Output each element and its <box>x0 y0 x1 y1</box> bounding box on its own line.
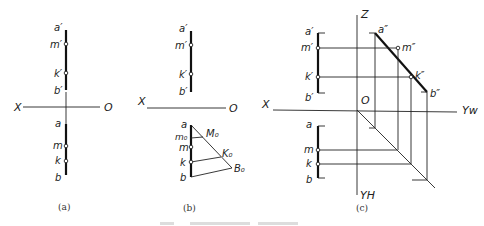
label-b-prime: b′ <box>179 86 188 97</box>
label-k-prime: k′ <box>54 68 63 79</box>
point-m-prime <box>189 43 193 47</box>
faded-caption-fragment <box>190 222 250 225</box>
point-k-prime <box>64 71 68 75</box>
point-m-prime <box>64 42 68 46</box>
construction-line-m0 <box>191 137 203 138</box>
axis-label-z: Z <box>360 8 369 21</box>
label-b-dbl: b″ <box>430 88 440 99</box>
label-M0: M₀ <box>206 128 219 139</box>
label-m-dbl: m″ <box>402 42 416 53</box>
label-m-prime: m′ <box>50 39 63 50</box>
label-m0: m₀ <box>175 132 188 142</box>
point-k <box>189 160 193 164</box>
label-b: b <box>55 172 61 183</box>
x-yw-axis-line <box>273 110 457 112</box>
point-k <box>64 159 68 163</box>
construction-line-k <box>191 157 221 162</box>
point-k <box>316 162 320 166</box>
label-m-prime: m′ <box>175 40 188 51</box>
label-m: m <box>179 142 189 153</box>
label-b-prime: b′ <box>54 85 63 96</box>
label-a: a <box>306 119 312 130</box>
caption-a: (a) <box>58 202 70 212</box>
label-b: b <box>180 172 186 183</box>
side-view-line <box>375 33 427 92</box>
label-k-prime: k′ <box>305 71 314 82</box>
45-degree-line <box>357 110 435 188</box>
label-b-prime: b′ <box>305 92 314 103</box>
axis-label-o: O <box>229 102 238 115</box>
label-k-prime: k′ <box>179 69 188 80</box>
caption-b: (b) <box>183 203 196 213</box>
label-k: k <box>55 155 62 166</box>
label-m-prime: m′ <box>301 42 314 53</box>
point-m-prime <box>316 46 320 50</box>
axis-label-x: X <box>137 95 146 108</box>
label-a-prime: a′ <box>54 22 63 33</box>
axis-label-o: O <box>104 101 113 114</box>
point-k-prime <box>316 75 320 79</box>
axis-label-o: O <box>361 94 370 107</box>
label-m: m <box>304 144 314 155</box>
projection-figure: X O a′ m′ k′ b′ a m k b (a) X O a′ m′ k′… <box>0 0 484 226</box>
label-a-prime: a′ <box>305 26 314 37</box>
label-K0: K₀ <box>222 148 233 159</box>
axis-label-yh: YH <box>360 189 375 202</box>
point-k-dbl <box>409 75 413 79</box>
point-m <box>189 145 193 149</box>
label-b: b <box>306 174 312 185</box>
panel-c: X O Z Yw YH a′ m′ k′ b′ a″ m″ k″ b″ a m … <box>261 8 478 213</box>
label-B0: B₀ <box>234 163 245 174</box>
panel-a: X O a′ m′ k′ b′ a m k b (a) <box>13 22 113 212</box>
axis-label-x: X <box>261 98 270 111</box>
axis-label-x: X <box>13 101 22 114</box>
label-k: k <box>180 157 187 168</box>
label-a-dbl: a″ <box>378 24 388 35</box>
point-m <box>64 144 68 148</box>
point-m <box>316 148 320 152</box>
axis-label-yw: Yw <box>462 104 478 117</box>
label-a-prime: a′ <box>179 23 188 34</box>
label-m: m <box>53 140 63 151</box>
construction-line-b <box>191 168 232 177</box>
point-m-dbl <box>396 46 400 50</box>
caption-c: (c) <box>356 203 368 213</box>
faded-caption-fragment <box>258 222 298 225</box>
faded-caption-fragment <box>160 222 174 225</box>
point-k-prime <box>189 72 193 76</box>
label-a: a <box>181 119 187 130</box>
panel-b: X O a′ m′ k′ b′ a m₀ m k b M₀ K₀ B₀ (b) <box>137 23 245 213</box>
label-a: a <box>55 118 61 129</box>
label-k: k <box>306 158 313 169</box>
label-k-dbl: k″ <box>415 70 425 81</box>
